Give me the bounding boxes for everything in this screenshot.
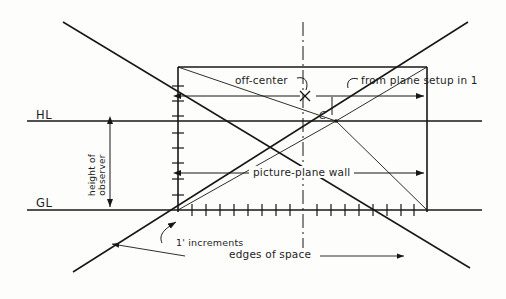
- off-center-label: off-center: [235, 74, 288, 86]
- height-of-observer-line1: height of: [87, 154, 97, 196]
- height-of-observer-line2: observer: [97, 154, 107, 195]
- ground-line-label: GL: [36, 196, 53, 210]
- increments-leader: [161, 222, 176, 243]
- from-plane-setup-leader: [348, 78, 358, 88]
- increments-label: 1' increments: [176, 237, 244, 248]
- picture-plane-wall-label: picture-plane wall: [249, 166, 354, 178]
- center-cross-mark: [300, 91, 310, 101]
- horizon-line-label: HL: [36, 108, 52, 122]
- perspective-diagram: HL GL height of observer off-center from…: [0, 0, 506, 299]
- from-plane-setup-label: from plane setup in 1: [361, 74, 478, 86]
- height-of-observer-label: height of observer: [88, 154, 107, 196]
- edges-of-space-leader-left: [112, 244, 185, 256]
- edges-of-space-lines: [63, 22, 470, 272]
- center-point-label: C: [319, 109, 327, 121]
- vanishing-point: [334, 119, 338, 123]
- edges-of-space-label: edges of space: [224, 248, 316, 260]
- diagonal-lower-left-to-upper-right: [73, 22, 468, 272]
- off-center-leader: [297, 78, 307, 90]
